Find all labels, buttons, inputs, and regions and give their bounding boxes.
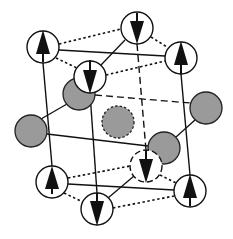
crystal-lattice-diagram xyxy=(0,0,233,239)
spin-atom-top-back-left xyxy=(27,30,59,63)
spin-atom-top-back-right xyxy=(121,12,153,44)
gray-atom-right xyxy=(190,92,222,124)
spin-atom-top-front-right xyxy=(165,41,197,74)
gray-atom-center xyxy=(102,106,134,138)
spin-atom-bottom-front-right xyxy=(174,174,206,207)
gray-atom-left xyxy=(15,115,47,147)
spin-atom-bottom-back-left xyxy=(36,166,68,198)
spin-atom-bottom-front-left xyxy=(81,193,113,226)
spin-atom-top-front-left xyxy=(74,60,106,94)
spin-atom-bottom-back-right xyxy=(130,150,162,183)
